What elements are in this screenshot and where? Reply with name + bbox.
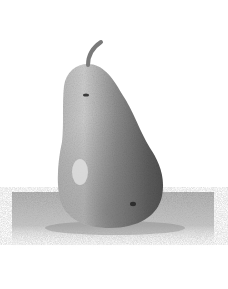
- highlight: [72, 159, 88, 185]
- stem: [88, 42, 101, 65]
- pear-drawing: Pencil drawing of a pear: [0, 0, 228, 289]
- spot-lower: [130, 202, 136, 206]
- pear-illustration: [0, 0, 228, 289]
- spot-upper: [83, 93, 89, 96]
- pear: [58, 64, 163, 228]
